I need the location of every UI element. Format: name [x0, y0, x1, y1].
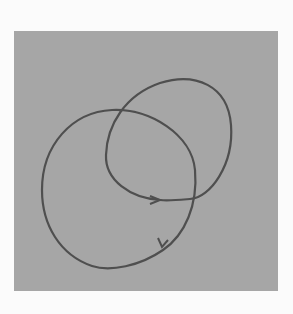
arrow-head-lower — [158, 238, 168, 247]
upper-right-loop — [106, 79, 231, 200]
lower-left-loop — [42, 110, 195, 268]
loops-diagram — [0, 0, 293, 314]
